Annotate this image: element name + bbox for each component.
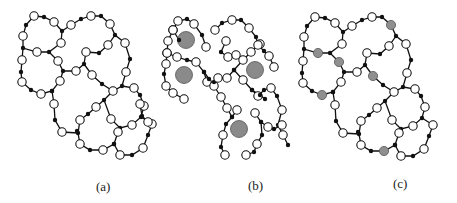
junction-node [381, 83, 385, 87]
white-node [130, 84, 138, 92]
white-node [388, 116, 396, 124]
white-node [253, 140, 261, 148]
white-node [397, 152, 405, 160]
junction-node [411, 154, 415, 158]
junction-node [310, 89, 314, 93]
junction-node [254, 35, 258, 39]
junction-node [394, 34, 398, 38]
junction-node [383, 99, 387, 103]
white-node [72, 67, 80, 75]
white-node [144, 118, 152, 126]
white-node [56, 77, 64, 85]
junction-node [239, 18, 243, 22]
junction-node [29, 88, 33, 92]
white-node [169, 26, 177, 34]
white-node [339, 129, 347, 137]
junction-node [220, 21, 224, 25]
junction-node [272, 127, 276, 131]
white-node [122, 68, 130, 76]
white-node [107, 115, 115, 123]
white-node [357, 141, 365, 149]
junction-node [230, 115, 234, 119]
junction-node [420, 116, 424, 120]
junction-node [263, 97, 267, 101]
junction-node [356, 130, 360, 134]
junction-node [42, 15, 46, 19]
white-node [331, 101, 339, 109]
white-node [169, 89, 177, 97]
white-node [76, 140, 84, 148]
junction-node [302, 47, 306, 51]
grey-node [368, 71, 377, 80]
large-grey-particle [176, 67, 193, 84]
white-node [409, 122, 417, 130]
junction-node [409, 58, 413, 62]
junction-node [200, 33, 204, 37]
white-node [174, 17, 182, 25]
white-node [224, 53, 232, 61]
junction-node [250, 88, 254, 92]
white-node [247, 48, 255, 56]
white-node [82, 48, 90, 56]
white-node [121, 39, 129, 47]
white-node [211, 26, 219, 34]
junction-node [50, 89, 54, 93]
junction-node [21, 46, 25, 50]
junction-node [128, 57, 132, 61]
junction-node [260, 133, 264, 137]
white-node [357, 117, 365, 125]
junction-node [286, 143, 290, 147]
junction-node [259, 120, 263, 124]
junction-node [24, 23, 28, 27]
junction-node [60, 29, 64, 33]
white-node [136, 100, 144, 108]
junction-node [185, 17, 189, 21]
junction-node [19, 70, 23, 74]
white-node [373, 104, 381, 112]
grey-node [313, 48, 322, 57]
junction-node [185, 58, 189, 62]
junction-node [47, 50, 51, 54]
white-node [222, 37, 230, 45]
junction-node [252, 150, 256, 154]
white-node [67, 21, 75, 29]
white-node [299, 79, 307, 87]
white-node [223, 74, 231, 82]
bond-edge [302, 49, 344, 95]
junction-node [262, 49, 266, 53]
junction-node [97, 51, 101, 55]
white-node [363, 49, 371, 57]
white-node [420, 145, 428, 153]
junction-node [378, 52, 382, 56]
white-node [337, 78, 345, 86]
junction-node [363, 63, 367, 67]
junction-node [401, 85, 405, 89]
junction-node [419, 94, 423, 98]
white-node [50, 18, 58, 26]
white-node [139, 144, 147, 152]
white-node [217, 93, 225, 101]
white-node [223, 104, 231, 112]
white-node [239, 76, 247, 84]
junction-node [331, 90, 335, 94]
junction-node [219, 50, 223, 54]
white-node [109, 87, 117, 95]
grey-node [317, 90, 326, 99]
junction-node [102, 98, 106, 102]
white-node [385, 42, 393, 50]
junction-node [162, 72, 166, 76]
large-grey-particle [231, 121, 248, 138]
white-node [264, 123, 272, 131]
white-node [30, 12, 38, 20]
junction-node [120, 84, 124, 88]
white-node [50, 100, 58, 108]
junction-node [275, 94, 279, 98]
white-node [300, 33, 308, 41]
white-node [162, 60, 170, 68]
junction-node [360, 18, 364, 22]
white-node [106, 20, 114, 28]
junction-node [328, 51, 332, 55]
white-node [368, 13, 376, 21]
white-node [267, 84, 275, 92]
white-node [87, 12, 95, 20]
